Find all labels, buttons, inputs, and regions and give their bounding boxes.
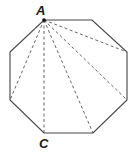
diagonals-from-a xyxy=(10,20,127,133)
diagonal-a-5 xyxy=(10,20,44,100)
label-a: A xyxy=(35,3,45,18)
diagonal-a-1 xyxy=(44,20,127,52)
octagon-diagram: A C xyxy=(0,0,134,154)
diagonal-a-2 xyxy=(44,20,127,100)
label-c: C xyxy=(39,136,49,151)
diagonal-a-3 xyxy=(44,20,93,133)
vertex-a-dot xyxy=(42,18,46,22)
